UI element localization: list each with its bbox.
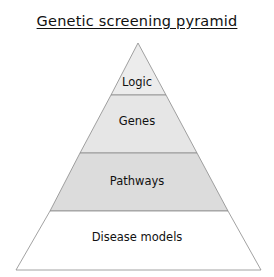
label-genes: Genes	[0, 114, 274, 128]
label-logic: Logic	[0, 75, 274, 89]
label-pathways: Pathways	[0, 174, 274, 188]
label-disease-models: Disease models	[0, 230, 274, 244]
